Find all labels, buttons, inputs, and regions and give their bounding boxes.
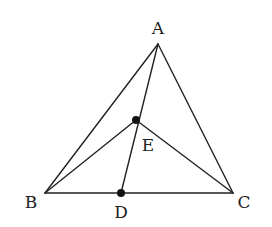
label-c: C xyxy=(237,192,250,212)
segment-ac xyxy=(158,44,233,193)
triangle-figure: ABCDE xyxy=(0,0,272,227)
label-e: E xyxy=(142,135,154,155)
segment-be xyxy=(45,120,136,193)
label-a: A xyxy=(151,18,165,38)
point-d-dot xyxy=(117,189,125,197)
segment-ab xyxy=(45,44,158,193)
label-d: D xyxy=(114,202,128,222)
label-b: B xyxy=(25,192,38,212)
geometry-diagram: ABCDE xyxy=(0,0,272,227)
segment-ce xyxy=(136,120,233,193)
point-e-dot xyxy=(132,116,140,124)
